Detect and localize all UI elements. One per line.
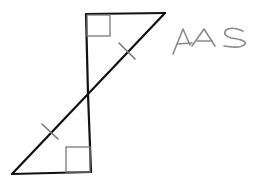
bottom-hypotenuse-tick-mark bbox=[42, 124, 58, 139]
top-right-angle-mark bbox=[87, 15, 110, 36]
aas-label: AAS bbox=[172, 24, 250, 52]
bottom-right-angle-mark bbox=[66, 147, 90, 172]
top-triangle-top-edge bbox=[86, 13, 165, 14]
top-hypotenuse-tick-mark bbox=[119, 43, 135, 59]
